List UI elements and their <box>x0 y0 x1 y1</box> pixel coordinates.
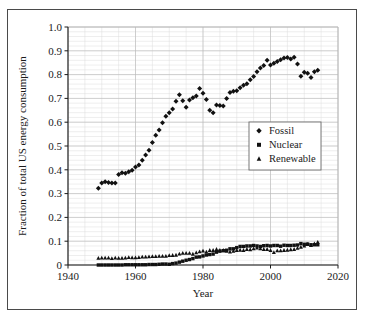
data-point <box>151 263 154 266</box>
data-point <box>242 245 245 248</box>
y-tick-label: 0.7 <box>48 92 62 104</box>
data-point <box>141 263 144 266</box>
data-point <box>147 263 150 266</box>
data-point <box>97 263 100 266</box>
x-tick-label: 1980 <box>192 270 215 282</box>
data-point <box>178 260 181 263</box>
y-tick-label: 0.4 <box>48 164 62 176</box>
data-point <box>181 259 184 262</box>
data-point <box>164 262 167 265</box>
data-point <box>134 263 137 266</box>
data-point <box>201 254 204 257</box>
data-point <box>154 263 157 266</box>
data-point <box>299 242 302 245</box>
data-point <box>188 258 191 261</box>
data-point <box>171 262 174 265</box>
data-point <box>238 245 241 248</box>
data-point <box>262 244 265 247</box>
y-axis-title: Fraction of total US energy consumption <box>16 56 28 236</box>
legend-marker-nuclear <box>257 143 261 147</box>
data-point <box>174 261 177 264</box>
data-point <box>124 263 127 266</box>
data-point <box>205 253 208 256</box>
data-point <box>282 244 285 247</box>
x-axis-title: Year <box>193 287 214 299</box>
data-point <box>107 263 110 266</box>
data-point <box>286 244 289 247</box>
y-tick-label: 0.2 <box>48 211 62 223</box>
data-point <box>184 259 187 262</box>
data-point <box>117 263 120 266</box>
data-point <box>276 244 279 247</box>
data-point <box>269 244 272 247</box>
legend-label-nuclear: Nuclear <box>269 139 303 150</box>
legend-label-fossil: Fossil <box>269 125 294 136</box>
data-point <box>157 263 160 266</box>
data-point <box>130 263 133 266</box>
data-point <box>215 250 218 253</box>
y-tick-label: 0 <box>57 259 63 271</box>
x-tick-label: 1960 <box>125 270 148 282</box>
data-point <box>114 263 117 266</box>
chart-legend: FossilNuclearRenewable <box>249 122 321 170</box>
y-tick-label: 0.3 <box>48 187 62 199</box>
data-point <box>211 252 214 255</box>
y-tick-label: 1.0 <box>48 21 62 33</box>
data-point <box>120 263 123 266</box>
data-point <box>137 263 140 266</box>
data-point <box>198 255 201 258</box>
data-point <box>292 244 295 247</box>
data-point <box>195 255 198 258</box>
data-point <box>100 263 103 266</box>
data-point <box>191 257 194 260</box>
data-point <box>127 263 130 266</box>
data-point <box>279 244 282 247</box>
data-point <box>144 263 147 266</box>
data-point <box>103 263 106 266</box>
x-tick-label: 2020 <box>327 270 350 282</box>
chart-figure: 00.10.20.30.40.50.60.70.80.91.0194019601… <box>0 0 365 320</box>
y-tick-label: 0.6 <box>48 116 62 128</box>
y-tick-label: 0.1 <box>48 235 62 247</box>
x-tick-label: 1940 <box>57 270 80 282</box>
x-tick-label: 2000 <box>260 270 283 282</box>
data-point <box>168 263 171 266</box>
data-point <box>161 262 164 265</box>
data-point <box>272 244 275 247</box>
chart-canvas: 00.10.20.30.40.50.60.70.80.91.0194019601… <box>0 0 365 320</box>
y-tick-label: 0.5 <box>48 140 62 152</box>
data-point <box>249 244 252 247</box>
data-point <box>289 244 292 247</box>
y-tick-label: 0.8 <box>48 68 62 80</box>
y-tick-label: 0.9 <box>48 45 62 57</box>
data-point <box>110 263 113 266</box>
data-point <box>208 253 211 256</box>
data-point <box>265 244 268 247</box>
legend-label-renewable: Renewable <box>269 153 316 164</box>
